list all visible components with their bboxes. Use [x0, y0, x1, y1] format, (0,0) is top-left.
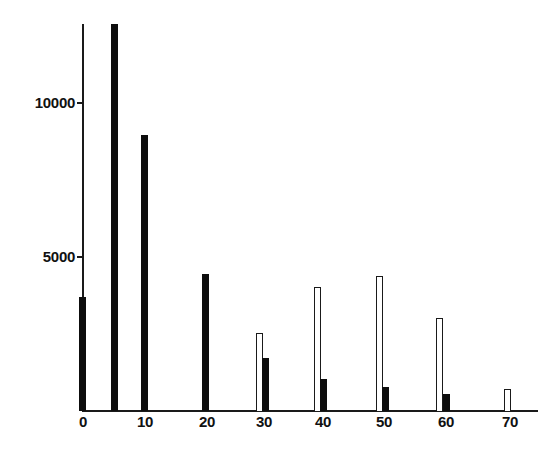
y-tick-10000	[77, 102, 83, 104]
x-tick-label-60: 60	[438, 413, 454, 431]
bar-filled-0	[79, 297, 86, 411]
bar-filled-20	[202, 274, 209, 411]
bar-chart: 10000 5000 0 10 20 30 40 50 60 70	[0, 0, 559, 461]
y-tick-label-5000: 5000	[43, 248, 75, 266]
x-tick-label-0: 0	[79, 413, 87, 431]
bar-filled-30	[262, 358, 269, 411]
x-tick-label-50: 50	[376, 413, 392, 431]
bar-filled-10	[141, 135, 148, 411]
y-tick-label-10000: 10000	[35, 94, 75, 112]
y-tick-5000	[77, 256, 83, 258]
bar-filled-50	[382, 387, 389, 411]
bar-filled-40	[320, 379, 327, 411]
x-tick-label-10: 10	[137, 413, 153, 431]
bar-open-60	[436, 318, 443, 411]
x-tick-label-30: 30	[256, 413, 272, 431]
bar-open-70	[504, 389, 511, 411]
bar-filled-5	[111, 24, 118, 411]
x-tick-label-70: 70	[502, 413, 518, 431]
x-axis-line	[82, 410, 538, 412]
bar-filled-60	[443, 394, 450, 411]
x-tick-label-40: 40	[315, 413, 331, 431]
x-tick-label-20: 20	[199, 413, 215, 431]
